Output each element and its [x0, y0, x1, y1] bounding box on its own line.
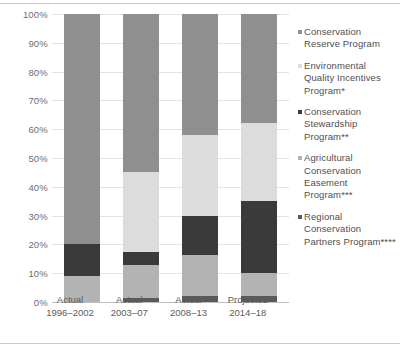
bar-segment-csp[interactable]: [64, 244, 100, 276]
legend-square-marker: [298, 156, 302, 160]
y-axis-tick-label: 90%: [4, 37, 48, 48]
legend-item[interactable]: Agricultural Conservation Easement Progr…: [298, 152, 398, 202]
bar-column[interactable]: [123, 14, 159, 302]
legend-item[interactable]: Conservation Reserve Program: [298, 26, 398, 51]
legend-item-label: Conservation Stewardship Program**: [304, 106, 398, 143]
top-divider: [0, 3, 400, 4]
bar-stack: [182, 14, 218, 302]
y-axis-tick-label: 100%: [4, 9, 48, 20]
plot-area: [52, 14, 289, 302]
bar-segment-acep[interactable]: [123, 265, 159, 298]
x-tick-line-1: Actual: [175, 294, 201, 305]
bar-segment-crp[interactable]: [64, 14, 100, 244]
bar-segment-eqip[interactable]: [123, 172, 159, 251]
bar-segment-acep[interactable]: [182, 255, 218, 297]
x-tick-line-1: Actual: [116, 294, 142, 305]
bar-stack: [123, 14, 159, 302]
bar-segment-eqip[interactable]: [182, 135, 218, 216]
y-axis-tick-label: 40%: [4, 181, 48, 192]
legend-square-marker: [298, 215, 302, 219]
legend-item-label: Conservation Reserve Program: [304, 26, 398, 51]
bar-column[interactable]: [182, 14, 218, 302]
bar-column[interactable]: [241, 14, 277, 302]
bar-segment-csp[interactable]: [123, 252, 159, 265]
legend-square-marker: [298, 110, 302, 114]
legend-square-marker: [298, 64, 302, 68]
bar-segment-eqip[interactable]: [241, 123, 277, 201]
y-axis-tick-label: 10%: [4, 268, 48, 279]
bar-stack: [64, 14, 100, 302]
stacked-bar-chart: Conservation Reserve ProgramEnvironmenta…: [0, 0, 400, 346]
legend-item[interactable]: Regional Conservation Partners Program**…: [298, 211, 398, 248]
x-tick-line-2: 2014–18: [205, 307, 291, 320]
bottom-divider: [0, 343, 400, 344]
bars-layer: [52, 14, 289, 302]
x-tick-line-1: Projected: [228, 294, 268, 305]
y-axis-tick-label: 80%: [4, 66, 48, 77]
x-tick-line-1: Actual: [57, 294, 83, 305]
bar-stack: [241, 14, 277, 302]
legend-item[interactable]: Conservation Stewardship Program**: [298, 106, 398, 143]
legend-item[interactable]: Environmental Quality Incentives Program…: [298, 60, 398, 97]
y-axis-tick-label: 30%: [4, 210, 48, 221]
bar-segment-crp[interactable]: [182, 14, 218, 135]
bar-segment-crp[interactable]: [123, 14, 159, 172]
bar-segment-acep[interactable]: [241, 273, 277, 296]
bar-segment-crp[interactable]: [241, 14, 277, 123]
y-axis-tick-label: 50%: [4, 153, 48, 164]
bar-segment-csp[interactable]: [241, 201, 277, 273]
x-axis-tick-label: Projected2014–18: [205, 294, 291, 319]
legend-item-label: Regional Conservation Partners Program**…: [304, 211, 398, 248]
bar-column[interactable]: [64, 14, 100, 302]
y-axis-tick-label: 70%: [4, 95, 48, 106]
legend-square-marker: [298, 30, 302, 34]
bar-segment-csp[interactable]: [182, 216, 218, 255]
legend-item-label: Environmental Quality Incentives Program…: [304, 60, 398, 97]
legend-item-label: Agricultural Conservation Easement Progr…: [304, 152, 398, 202]
y-axis-tick-label: 60%: [4, 124, 48, 135]
chart-legend: Conservation Reserve ProgramEnvironmenta…: [298, 26, 398, 257]
y-axis-tick-label: 20%: [4, 239, 48, 250]
